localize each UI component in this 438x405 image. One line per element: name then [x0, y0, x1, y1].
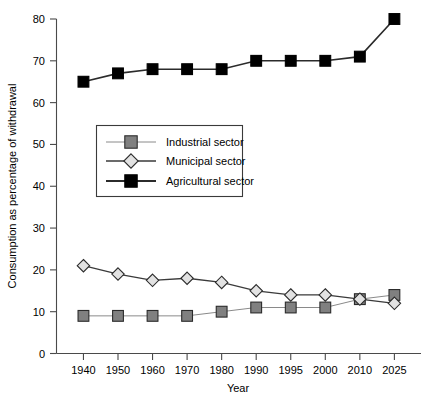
y-tick-label: 10	[33, 306, 45, 318]
data-point-marker	[113, 310, 124, 321]
data-point-marker	[354, 51, 365, 62]
x-tick-label: 1990	[244, 364, 268, 376]
data-point-marker	[285, 55, 296, 66]
y-tick-label: 40	[33, 180, 45, 192]
series-agricultural-sector	[78, 14, 400, 88]
data-point-marker	[251, 302, 262, 313]
x-tick-label: 1950	[106, 364, 130, 376]
series-municipal-sector	[77, 259, 400, 309]
x-tick-label: 1940	[71, 364, 95, 376]
data-point-marker	[285, 289, 297, 301]
data-point-marker	[147, 310, 158, 321]
x-tick-label: 1995	[279, 364, 303, 376]
data-point-marker	[320, 55, 331, 66]
x-tick-label: 2025	[382, 364, 406, 376]
legend-item-label: Industrial sector	[166, 136, 244, 148]
data-point-marker	[320, 302, 331, 313]
y-tick-label: 0	[39, 348, 45, 360]
series-line	[83, 266, 394, 304]
data-point-marker	[285, 302, 296, 313]
x-axis-title: Year	[227, 382, 250, 394]
data-point-marker	[216, 306, 227, 317]
data-point-marker	[182, 64, 193, 75]
data-point-marker	[78, 76, 89, 87]
y-tick-label: 30	[33, 222, 45, 234]
data-point-marker	[147, 64, 158, 75]
data-point-marker	[146, 274, 158, 286]
x-axis-tick-group: 1940195019601970198019901995200020102025	[71, 354, 406, 376]
data-point-marker	[216, 64, 227, 75]
x-tick-label: 2000	[313, 364, 337, 376]
data-point-marker	[250, 285, 262, 297]
y-axis-title: Consumption as percentage of withdrawal	[6, 84, 18, 289]
data-point-marker	[181, 272, 193, 284]
chart-legend: Industrial sectorMunicipal sectorAgricul…	[97, 126, 255, 197]
data-point-marker	[78, 310, 89, 321]
x-tick-label: 1960	[140, 364, 164, 376]
data-point-marker	[389, 14, 400, 25]
data-point-marker	[251, 55, 262, 66]
data-point-marker	[319, 289, 331, 301]
series-industrial-sector	[78, 290, 400, 322]
data-point-marker	[125, 175, 137, 187]
x-tick-label: 1980	[209, 364, 233, 376]
legend-item-label: Municipal sector	[166, 155, 246, 167]
y-axis-tick-group: 01020304050607080	[33, 13, 57, 360]
data-point-marker	[113, 68, 124, 79]
y-tick-label: 60	[33, 97, 45, 109]
data-point-marker	[215, 276, 227, 288]
x-tick-label: 1970	[175, 364, 199, 376]
data-point-marker	[112, 268, 124, 280]
y-tick-label: 20	[33, 264, 45, 276]
chart-container: 01020304050607080 1940195019601970198019…	[0, 0, 438, 405]
data-point-marker	[125, 136, 137, 148]
data-point-marker	[77, 259, 89, 271]
y-tick-label: 70	[33, 55, 45, 67]
y-tick-label: 50	[33, 138, 45, 150]
legend-item-label: Agricultural sector	[166, 175, 254, 187]
data-point-marker	[182, 310, 193, 321]
y-tick-label: 80	[33, 13, 45, 25]
x-tick-label: 2010	[348, 364, 372, 376]
series-line	[83, 19, 394, 82]
line-chart: 01020304050607080 1940195019601970198019…	[0, 0, 438, 405]
